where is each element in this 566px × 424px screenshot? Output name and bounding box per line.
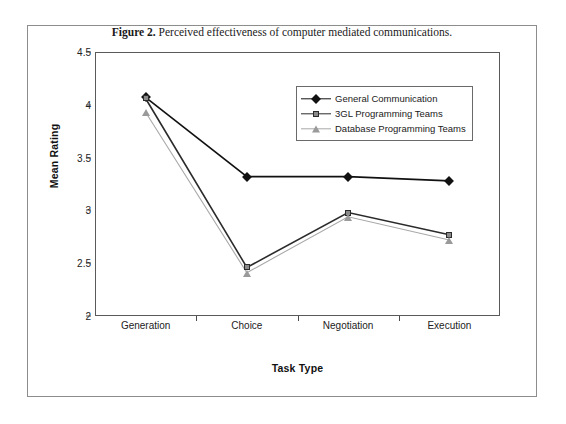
figure-caption-text: Perceived effectiveness of computer medi… [159, 26, 453, 38]
y-tick-mark [86, 52, 91, 53]
figure-caption-label: Figure 2. [112, 26, 156, 38]
square-icon [313, 111, 319, 117]
x-tick-mark [298, 316, 299, 321]
legend-label: 3GL Programming Teams [335, 108, 443, 119]
legend-diamond-icon [313, 95, 320, 102]
figure-caption: Figure 2. Perceived effectiveness of com… [27, 26, 537, 38]
x-tick-mark [399, 316, 400, 321]
legend-triangle-icon [312, 125, 320, 132]
x-axis-title: Task Type [95, 362, 500, 374]
triangle-icon [312, 125, 320, 132]
chart-legend: General Communication3GL Programming Tea… [296, 86, 473, 141]
triangle-marker-icon [243, 270, 251, 277]
y-axis-title: Mean Rating [48, 96, 60, 216]
y-tick-mark [86, 316, 91, 317]
legend-key [301, 123, 331, 135]
y-tick-label: 2.5 [51, 258, 91, 269]
legend-item: General Communication [301, 91, 466, 106]
legend-key [301, 93, 331, 105]
y-tick-mark [86, 263, 91, 264]
x-tick-label: Execution [389, 320, 509, 331]
x-tick-mark [196, 316, 197, 321]
legend-key [301, 108, 331, 120]
x-axis-labels: GenerationChoiceNegotiationExecution [95, 320, 500, 340]
y-tick-mark [86, 157, 91, 158]
legend-label: Database Programming Teams [335, 123, 466, 134]
y-tick-mark [86, 104, 91, 105]
triangle-marker-icon [445, 237, 453, 244]
triangle-marker-icon [344, 214, 352, 221]
legend-square-icon [313, 111, 319, 117]
y-tick-mark [86, 210, 91, 211]
diamond-icon [311, 94, 321, 104]
legend-label: General Communication [335, 93, 437, 104]
square-marker-icon [143, 95, 149, 101]
legend-item: 3GL Programming Teams [301, 106, 466, 121]
figure-page: Figure 2. Perceived effectiveness of com… [0, 0, 566, 424]
triangle-marker-icon [142, 109, 150, 116]
legend-item: Database Programming Teams [301, 121, 466, 136]
y-tick-label: 4.5 [51, 47, 91, 58]
